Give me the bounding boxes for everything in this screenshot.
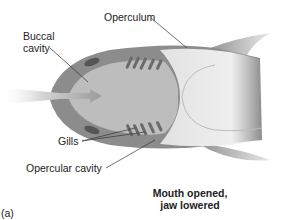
label-buccal-1: Buccal [23,30,55,42]
label-gills: Gills [58,135,78,147]
label-operculum: Operculum [104,11,155,23]
operculum-leader [151,18,187,48]
caption-line-2: jaw lowered [125,199,255,211]
panel-label: (a) [1,207,14,219]
label-buccal-2: cavity [23,42,50,54]
caption-line-1: Mouth opened, [125,187,255,199]
label-opercular-cavity: Opercular cavity [26,162,102,174]
